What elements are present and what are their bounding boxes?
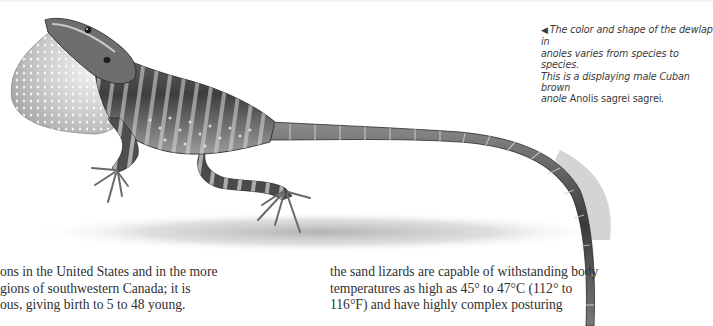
book-page: ◀The color and shape of the dewlap in an… xyxy=(0,0,713,326)
caption-end-punct: . xyxy=(661,93,664,104)
right-column-line-2: temperatures as high as 45° to 47°C (112… xyxy=(330,281,580,298)
ear-opening xyxy=(104,57,111,63)
caption-line-1: The color and shape of the dewlap in xyxy=(541,24,713,47)
right-column-line-3: 116°F) and have highly complex posturing xyxy=(330,297,580,314)
body-text-left-column: ons in the United States and in the more… xyxy=(0,264,300,314)
caption-species-name: Anolis sagrei sagrei xyxy=(570,93,661,104)
eye-icon xyxy=(85,27,91,33)
figure-caption: ◀The color and shape of the dewlap in an… xyxy=(541,24,713,105)
left-column-line-1: ons in the United States and in the more xyxy=(0,264,300,281)
caption-line-4: anole xyxy=(541,93,570,104)
caption-line-3: This is a displaying male Cuban brown xyxy=(541,71,690,93)
left-column-line-2: gions of southwestern Canada; it is xyxy=(0,281,300,298)
body-text-right-column: the sand lizards are capable of withstan… xyxy=(330,264,580,314)
left-column-line-3: ous, giving birth to 5 to 48 young. xyxy=(0,297,300,314)
right-column-line-1: the sand lizards are capable of withstan… xyxy=(330,264,580,281)
caption-pointer-icon: ◀ xyxy=(541,25,548,35)
caption-line-2: anoles varies from species to species. xyxy=(541,48,679,70)
